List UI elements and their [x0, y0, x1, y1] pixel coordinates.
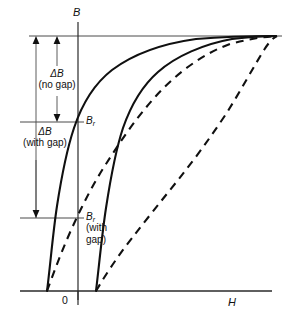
br-no-gap-subscript: r: [93, 120, 95, 127]
br-with-gap-label: Br (with gap): [86, 211, 107, 246]
curve-solid-with-gap: [96, 36, 276, 291]
delta-b-with-gap-label: ΔB (with gap): [8, 126, 82, 148]
origin-label: 0: [62, 295, 68, 307]
delta-b-no-gap-label: ΔB (no gap): [28, 68, 86, 90]
br-no-gap-symbol: B: [86, 115, 93, 126]
br-no-gap-label: Br: [86, 115, 95, 126]
br-with-gap-note-line2: gap): [86, 234, 107, 246]
br-with-gap-subscript: r: [93, 216, 95, 223]
br-with-gap-symbol: B: [86, 211, 93, 222]
b-axis-label: B: [73, 6, 80, 18]
br-with-gap-note-line1: (with: [86, 222, 107, 234]
delta-b-no-gap-qualifier: (no gap): [28, 79, 86, 90]
h-axis-label: H: [228, 296, 236, 308]
delta-b-with-gap-dimension: [33, 160, 40, 218]
curve-dashed-with-gap: [96, 36, 277, 291]
delta-b-with-gap-qualifier: (with gap): [8, 137, 82, 148]
delta-b-no-gap-symbol: ΔB: [28, 68, 86, 79]
bh-curve-canvas: [0, 0, 286, 318]
bh-curve-figure: B H 0 ΔB (no gap) ΔB (with gap) Br Br (w…: [0, 0, 286, 318]
delta-b-with-gap-symbol: ΔB: [8, 126, 82, 137]
